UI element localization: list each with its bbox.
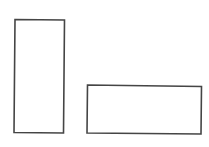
background: [0, 0, 209, 147]
diagram-canvas: [0, 0, 209, 147]
